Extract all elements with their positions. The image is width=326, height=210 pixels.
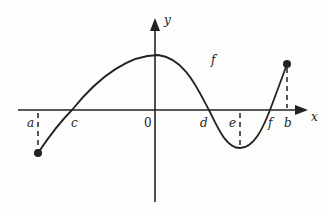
function-graph: a c 0 d e f b x y f	[0, 0, 326, 210]
label-origin: 0	[144, 116, 152, 130]
label-function: f	[210, 53, 218, 67]
label-c: c	[71, 116, 78, 130]
label-b: b	[284, 116, 292, 130]
label-y-axis: y	[163, 13, 171, 27]
y-axis-arrow-icon	[150, 18, 160, 31]
endpoint-b-dot	[283, 60, 291, 68]
label-f-point: f	[267, 116, 275, 130]
label-e: e	[229, 116, 236, 130]
label-x-axis: x	[311, 110, 318, 124]
label-a: a	[27, 116, 34, 130]
endpoint-a-dot	[34, 149, 42, 157]
x-axis-arrow-icon	[295, 105, 308, 115]
function-curve	[38, 55, 287, 153]
label-d: d	[200, 116, 208, 130]
